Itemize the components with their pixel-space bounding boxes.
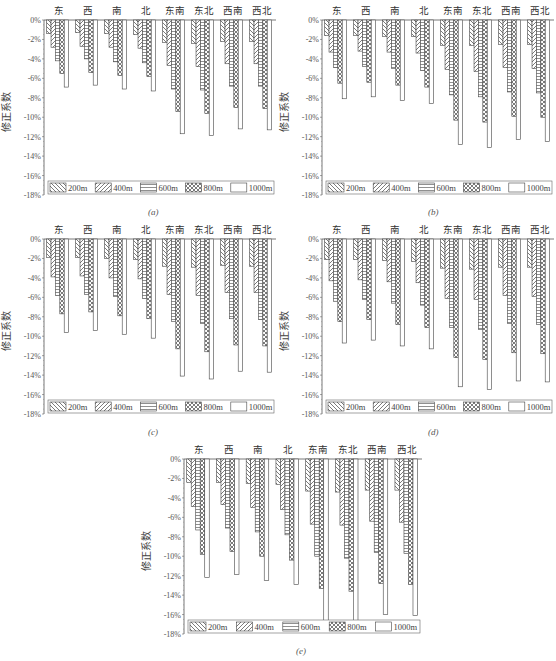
svg-text:-6%: -6%	[28, 293, 42, 302]
svg-text:东南: 东南	[443, 224, 463, 235]
svg-text:-14%: -14%	[24, 152, 42, 161]
svg-text:东北: 东北	[472, 224, 492, 235]
svg-text:-4%: -4%	[306, 274, 320, 283]
svg-text:-18%: -18%	[24, 410, 42, 419]
svg-text:东北: 东北	[472, 5, 492, 16]
chart-panel-a: 修正系数0%-2%-4%-6%-8%-10%-12%-14%-16%-18%东西…	[0, 0, 278, 205]
svg-text:西: 西	[224, 444, 234, 455]
svg-text:-8%: -8%	[306, 313, 320, 322]
svg-text:-10%: -10%	[302, 332, 320, 341]
svg-text:东: 东	[54, 224, 64, 235]
svg-text:-18%: -18%	[302, 410, 320, 419]
svg-text:-18%: -18%	[302, 191, 320, 200]
svg-text:-10%: -10%	[24, 332, 42, 341]
svg-text:西南: 西南	[223, 224, 243, 235]
svg-text:800m: 800m	[204, 402, 224, 412]
svg-text:西北: 西北	[530, 5, 550, 16]
svg-text:西: 西	[361, 5, 371, 16]
svg-text:东: 东	[54, 5, 64, 16]
svg-text:修正系数: 修正系数	[0, 311, 12, 351]
svg-text:-6%: -6%	[306, 293, 320, 302]
chart-panel-e: 修正系数0%-2%-4%-6%-8%-10%-12%-14%-16%-18%东西…	[140, 439, 430, 644]
svg-text:北: 北	[283, 444, 293, 455]
svg-text:-4%: -4%	[28, 274, 42, 283]
svg-text:1000m: 1000m	[394, 622, 418, 632]
svg-text:1000m: 1000m	[527, 183, 551, 193]
svg-text:修正系数: 修正系数	[140, 531, 152, 571]
svg-text:400m: 400m	[113, 402, 133, 412]
chart-panel-c: 修正系数0%-2%-4%-6%-8%-10%-12%-14%-16%-18%东西…	[0, 219, 278, 424]
svg-text:西北: 西北	[530, 224, 550, 235]
svg-text:西北: 西北	[397, 444, 417, 455]
svg-text:200m: 200m	[346, 183, 366, 193]
svg-text:-6%: -6%	[168, 513, 182, 522]
chart-panel-d: 修正系数0%-2%-4%-6%-8%-10%-12%-14%-16%-18%东西…	[278, 219, 556, 424]
svg-text:南: 南	[390, 224, 400, 235]
svg-text:修正系数: 修正系数	[278, 311, 290, 351]
svg-text:西: 西	[83, 224, 93, 235]
svg-text:-12%: -12%	[302, 133, 320, 142]
svg-text:南: 南	[112, 224, 122, 235]
svg-text:-14%: -14%	[302, 152, 320, 161]
svg-text:西南: 西南	[501, 224, 521, 235]
svg-text:-8%: -8%	[168, 533, 182, 542]
svg-text:东北: 东北	[338, 444, 358, 455]
chart-panel-b: 修正系数0%-2%-4%-6%-8%-10%-12%-14%-16%-18%东西…	[278, 0, 556, 205]
svg-text:-10%: -10%	[24, 113, 42, 122]
svg-text:北: 北	[419, 5, 429, 16]
svg-text:-16%: -16%	[302, 172, 320, 181]
svg-text:-2%: -2%	[168, 474, 182, 483]
svg-text:-16%: -16%	[24, 391, 42, 400]
svg-text:-12%: -12%	[164, 572, 182, 581]
svg-text:-6%: -6%	[28, 74, 42, 83]
svg-text:600m: 600m	[301, 622, 321, 632]
svg-text:-2%: -2%	[306, 35, 320, 44]
svg-text:南: 南	[390, 5, 400, 16]
svg-text:-8%: -8%	[306, 94, 320, 103]
svg-text:东南: 东南	[165, 224, 185, 235]
svg-text:-4%: -4%	[28, 55, 42, 64]
svg-text:-2%: -2%	[28, 254, 42, 263]
svg-text:-6%: -6%	[306, 74, 320, 83]
panel-label-a: (a)	[148, 207, 159, 217]
svg-text:西南: 西南	[367, 444, 387, 455]
svg-text:-2%: -2%	[28, 35, 42, 44]
svg-text:-4%: -4%	[168, 494, 182, 503]
svg-text:北: 北	[141, 5, 151, 16]
svg-text:600m: 600m	[158, 402, 178, 412]
svg-text:-4%: -4%	[306, 55, 320, 64]
svg-text:200m: 200m	[68, 402, 88, 412]
svg-text:南: 南	[253, 444, 263, 455]
svg-text:-12%: -12%	[302, 352, 320, 361]
panel-label-b: (b)	[428, 207, 439, 217]
svg-text:400m: 400m	[391, 183, 411, 193]
svg-text:西南: 西南	[223, 5, 243, 16]
svg-text:东: 东	[332, 224, 342, 235]
svg-text:东南: 东南	[165, 5, 185, 16]
svg-text:南: 南	[112, 5, 122, 16]
svg-text:200m: 200m	[346, 402, 366, 412]
svg-text:800m: 800m	[204, 183, 224, 193]
svg-text:400m: 400m	[254, 622, 274, 632]
svg-text:西北: 西北	[252, 224, 272, 235]
svg-text:800m: 800m	[347, 622, 367, 632]
svg-text:-16%: -16%	[164, 611, 182, 620]
svg-text:东南: 东南	[443, 5, 463, 16]
svg-text:东北: 东北	[194, 224, 214, 235]
svg-text:0%: 0%	[308, 16, 319, 25]
svg-text:0%: 0%	[30, 235, 41, 244]
panel-label-d: (d)	[428, 427, 439, 437]
svg-text:0%: 0%	[30, 16, 41, 25]
svg-text:200m: 200m	[68, 183, 88, 193]
svg-text:-2%: -2%	[306, 254, 320, 263]
svg-text:修正系数: 修正系数	[278, 92, 290, 132]
svg-text:西: 西	[83, 5, 93, 16]
svg-text:400m: 400m	[391, 402, 411, 412]
svg-text:1000m: 1000m	[527, 402, 551, 412]
svg-text:800m: 800m	[482, 402, 502, 412]
svg-text:0%: 0%	[170, 455, 181, 464]
svg-text:东: 东	[332, 5, 342, 16]
svg-text:400m: 400m	[113, 183, 133, 193]
svg-text:-12%: -12%	[24, 352, 42, 361]
svg-text:修正系数: 修正系数	[0, 92, 12, 132]
